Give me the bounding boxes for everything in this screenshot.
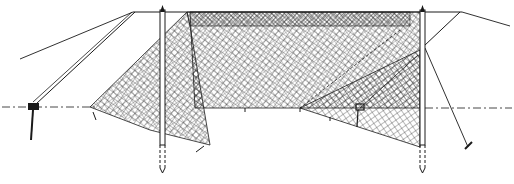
right-guy-rope (424, 12, 472, 149)
left-pole (160, 5, 165, 173)
net-top-band (187, 12, 410, 26)
left-anchor-stake (28, 103, 39, 140)
net-trap-figure (0, 0, 514, 184)
net-trap-drawing (0, 0, 514, 184)
right-pole (420, 5, 425, 173)
